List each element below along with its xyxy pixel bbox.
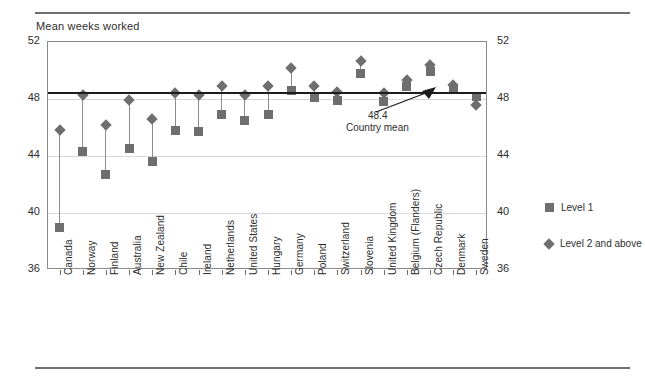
x-label-new-zealand: New Zealand bbox=[155, 215, 166, 275]
y-tick-label-right-52: 52 bbox=[497, 34, 523, 46]
legend-item-label: Level 2 and above bbox=[560, 238, 642, 249]
x-tick bbox=[199, 270, 200, 275]
x-tick bbox=[384, 270, 385, 275]
x-label-chile: Chile bbox=[178, 252, 189, 275]
y-tick-label-52: 52 bbox=[14, 34, 40, 46]
data-point-level-1 bbox=[310, 93, 319, 102]
y-tick-label-40: 40 bbox=[14, 205, 40, 217]
x-label-hungary: Hungary bbox=[271, 237, 282, 276]
x-label-czech-republic: Czech Republic bbox=[433, 204, 444, 275]
bottom-rule bbox=[35, 367, 630, 369]
data-point-level-2-and-above bbox=[100, 119, 111, 130]
y-tick-label-48: 48 bbox=[14, 91, 40, 103]
data-point-level-1 bbox=[264, 110, 273, 119]
data-point-level-1 bbox=[194, 127, 203, 136]
data-point-level-2-and-above bbox=[309, 81, 320, 92]
x-tick bbox=[60, 270, 61, 275]
data-point-level-1 bbox=[240, 116, 249, 125]
x-label-switzerland: Switzerland bbox=[340, 222, 351, 275]
x-label-sweden: Sweden bbox=[479, 238, 490, 275]
x-tick bbox=[83, 270, 84, 275]
x-label-ireland: Ireland bbox=[202, 244, 213, 275]
square-marker-icon bbox=[545, 203, 554, 212]
data-point-level-1 bbox=[55, 223, 64, 232]
x-label-norway: Norway bbox=[86, 241, 97, 276]
y-tick-label-right-36: 36 bbox=[497, 262, 523, 274]
connector-line bbox=[82, 95, 83, 152]
data-point-level-1 bbox=[101, 170, 110, 179]
connector-line bbox=[175, 93, 176, 130]
y-tick-label-44: 44 bbox=[14, 148, 40, 160]
x-label-australia: Australia bbox=[132, 235, 143, 275]
connector-line bbox=[152, 119, 153, 162]
x-label-denmark: Denmark bbox=[456, 234, 467, 275]
data-point-level-2-and-above bbox=[147, 113, 158, 124]
data-point-level-1 bbox=[333, 96, 342, 105]
data-point-level-1 bbox=[217, 110, 226, 119]
data-point-level-2-and-above bbox=[471, 99, 482, 110]
x-tick bbox=[245, 270, 246, 275]
top-rule bbox=[35, 12, 630, 14]
data-point-level-2-and-above bbox=[262, 81, 273, 92]
x-tick bbox=[430, 270, 431, 275]
annotation-label: Country mean bbox=[346, 122, 409, 133]
x-tick bbox=[453, 270, 454, 275]
x-label-belgium-flanders: Belgium (Flanders) bbox=[410, 189, 421, 275]
page-title: Mean weeks worked bbox=[36, 20, 140, 32]
x-label-united-states: United States bbox=[248, 214, 259, 275]
x-tick bbox=[152, 270, 153, 275]
x-label-united-kingdom: United Kingdom bbox=[387, 202, 398, 275]
x-label-finland: Finland bbox=[109, 242, 120, 276]
data-point-level-2-and-above bbox=[355, 55, 366, 66]
data-point-level-1 bbox=[148, 157, 157, 166]
x-tick bbox=[268, 270, 269, 275]
connector-line bbox=[129, 100, 130, 148]
plot-area bbox=[47, 41, 487, 269]
x-label-germany: Germany bbox=[294, 233, 305, 275]
x-tick bbox=[106, 270, 107, 275]
annotation-arrow-icon bbox=[374, 86, 440, 114]
diamond-marker-icon bbox=[543, 238, 554, 249]
y-tick-label-36: 36 bbox=[14, 262, 40, 274]
x-tick bbox=[361, 270, 362, 275]
data-point-level-2-and-above bbox=[123, 95, 134, 106]
x-tick bbox=[291, 270, 292, 275]
data-point-level-1 bbox=[171, 126, 180, 135]
x-label-slovenia: Slovenia bbox=[364, 236, 375, 275]
x-tick bbox=[175, 270, 176, 275]
x-tick bbox=[476, 270, 477, 275]
y-tick-label-right-44: 44 bbox=[497, 148, 523, 160]
x-tick bbox=[222, 270, 223, 275]
data-point-level-1 bbox=[356, 69, 365, 78]
data-point-level-2-and-above bbox=[216, 81, 227, 92]
y-tick-label-right-48: 48 bbox=[497, 91, 523, 103]
y-tick-label-right-40: 40 bbox=[497, 205, 523, 217]
x-label-netherlands: Netherlands bbox=[225, 220, 236, 275]
x-label-canada: Canada bbox=[63, 239, 74, 275]
legend-item-level-1[interactable]: Level 1 bbox=[545, 202, 593, 213]
legend-item-level-2-and-above[interactable]: Level 2 and above bbox=[545, 238, 642, 249]
data-point-level-1 bbox=[78, 147, 87, 156]
legend-item-label: Level 1 bbox=[561, 202, 593, 213]
x-tick bbox=[129, 270, 130, 275]
x-label-poland: Poland bbox=[317, 243, 328, 275]
data-point-level-2-and-above bbox=[285, 62, 296, 73]
connector-line bbox=[105, 125, 106, 175]
x-tick bbox=[314, 270, 315, 275]
gridline-44 bbox=[48, 156, 486, 157]
data-point-level-2-and-above bbox=[54, 125, 65, 136]
x-tick bbox=[407, 270, 408, 275]
x-tick bbox=[337, 270, 338, 275]
connector-line bbox=[59, 130, 60, 227]
data-point-level-1 bbox=[125, 144, 134, 153]
